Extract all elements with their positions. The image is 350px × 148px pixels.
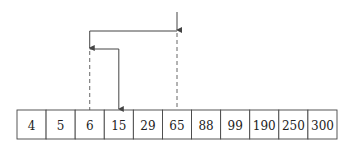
array-cell: 88: [192, 110, 221, 139]
cell-value: 65: [169, 119, 184, 133]
array-cells: 4561529658899190250300: [17, 110, 337, 139]
binary-search-diagram: 4561529658899190250300: [0, 0, 350, 148]
array-cell: 5: [46, 110, 75, 139]
cell-value: 88: [198, 119, 213, 133]
cell-value: 99: [228, 119, 243, 133]
cell-value: 5: [57, 119, 65, 133]
cell-value: 29: [140, 119, 155, 133]
cell-value: 250: [282, 119, 305, 133]
cell-value: 6: [86, 119, 94, 133]
array-cell: 99: [221, 110, 250, 139]
array-cell: 4: [17, 110, 46, 139]
array-cell: 300: [308, 110, 337, 139]
cell-value: 190: [253, 119, 276, 133]
array-cell: 15: [104, 110, 133, 139]
array-cell: 29: [133, 110, 162, 139]
cell-value: 300: [311, 119, 334, 133]
array-cell: 6: [75, 110, 104, 139]
array-cell: 65: [162, 110, 191, 139]
array-cell: 250: [279, 110, 308, 139]
search-paths: [90, 12, 177, 110]
array-cell: 190: [250, 110, 279, 139]
cell-value: 4: [28, 119, 36, 133]
cell-value: 15: [111, 119, 126, 133]
